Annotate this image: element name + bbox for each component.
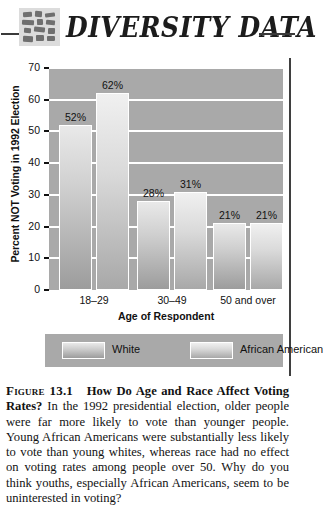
mosaic-tile: [47, 36, 55, 41]
gridline: [49, 67, 283, 69]
mosaic-tile: [36, 35, 44, 41]
y-axis-tick-label: 50: [14, 124, 40, 136]
mosaic-tile: [37, 19, 43, 25]
mosaic-tile: [45, 12, 55, 17]
bar-value-label: 28%: [134, 187, 173, 199]
african-american-swatch: [190, 342, 233, 359]
y-axis-tick-label: 70: [14, 61, 40, 73]
chart-legend: WhiteAfrican American: [45, 334, 283, 367]
chart-panel: Percent NOT Voting in 1992 Election 0102…: [0, 58, 296, 373]
mosaic-tile: [22, 20, 34, 26]
y-axis-tick-label: 30: [14, 188, 40, 200]
header-rule-right: [259, 33, 295, 35]
mosaic-tile: [24, 28, 31, 33]
y-axis-tick-label: 10: [14, 251, 40, 263]
mosaic-tiles-icon: [19, 8, 60, 46]
bar-value-label: 21%: [247, 209, 286, 221]
y-axis-tick-label: 40: [14, 156, 40, 168]
mosaic-tile: [46, 20, 55, 26]
x-axis-tick-label: 50 and over: [203, 294, 293, 306]
caption-body: In the 1992 presidential election, older…: [6, 399, 289, 505]
figure-number: Figure 13.1: [6, 383, 73, 398]
y-axis-tick-label: 0: [14, 283, 40, 295]
bar-african-american: [96, 93, 129, 290]
bar-value-label: 21%: [210, 209, 249, 221]
legend-label: White: [112, 343, 140, 355]
header: DIVERSITY DATA: [0, 0, 296, 56]
mosaic-tile: [23, 12, 32, 17]
chart-right-border: [289, 58, 291, 376]
bar-value-label: 62%: [93, 79, 132, 91]
x-axis-tick-label: 18–29: [49, 294, 139, 306]
bar-white: [59, 125, 92, 290]
bar-white: [213, 223, 246, 290]
bar-african-american: [174, 192, 207, 290]
bar-value-label: 31%: [171, 178, 210, 190]
x-axis-title: Age of Respondent: [49, 310, 283, 322]
white-swatch: [62, 342, 105, 359]
bar-white: [137, 201, 170, 290]
page-title: DIVERSITY DATA: [66, 6, 256, 49]
plot-area: 52%62%28%31%21%21%: [49, 68, 283, 290]
gridline: [49, 99, 283, 101]
mosaic-tile: [34, 26, 45, 32]
legend-label: African American: [240, 343, 323, 355]
bar-value-label: 52%: [56, 111, 95, 123]
mosaic-tile: [35, 11, 42, 17]
mosaic-tile: [48, 28, 55, 34]
mosaic-tile: [23, 36, 33, 42]
y-axis-tick-label: 20: [14, 220, 40, 232]
y-axis-tick-label: 60: [14, 93, 40, 105]
bar-african-american: [250, 223, 283, 290]
figure-caption: Figure 13.1 How Do Age and Race Affect V…: [6, 383, 289, 506]
